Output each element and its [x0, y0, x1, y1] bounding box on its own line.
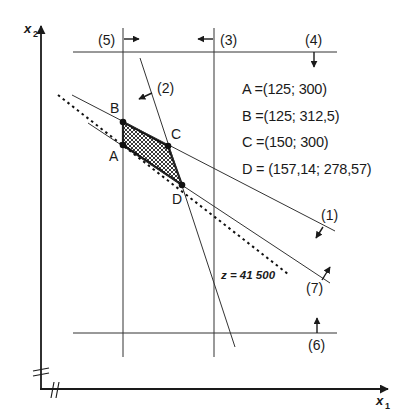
y-axis-label: x 2 — [23, 21, 38, 39]
coord-b: B =(125; 312,5) — [242, 103, 371, 130]
vertex-label-c: C — [171, 126, 181, 142]
objective-label: z = 41 500 — [220, 269, 276, 281]
arrow-1-icon — [316, 227, 323, 238]
vertex-c — [165, 143, 172, 150]
x-axis-label: x 1 — [375, 393, 390, 411]
vertex-label-a: A — [109, 148, 119, 164]
vertex-d — [179, 182, 186, 189]
constraint-label-5: (5) — [98, 32, 115, 48]
arrow-7-icon — [322, 267, 330, 280]
vertex-label-b: B — [110, 100, 119, 116]
y-axis — [33, 26, 49, 390]
arrow-2-icon — [139, 93, 152, 99]
svg-text:2: 2 — [33, 29, 38, 39]
svg-text:1: 1 — [385, 401, 390, 411]
constraint-label-4: (4) — [305, 32, 322, 48]
vertex-coordinates-list: A =(125; 300) B =(125; 312,5) C =(150; 3… — [242, 76, 371, 182]
constraint-line-2 — [140, 58, 235, 347]
constraint-label-7: (7) — [306, 280, 323, 296]
vertex-b — [120, 119, 127, 126]
constraint-label-1: (1) — [321, 207, 338, 223]
vertex-a — [120, 142, 127, 149]
constraint-label-3: (3) — [220, 32, 237, 48]
svg-text:x: x — [23, 21, 32, 36]
lp-diagram: x 2 x 1 (5) (3) (4) (2) (1) (7) — [0, 0, 409, 419]
x-axis — [40, 382, 388, 398]
constraint-label-2: (2) — [157, 80, 174, 96]
coord-d: D = (157,14; 278,57) — [242, 156, 371, 183]
coord-c: C =(150; 300) — [242, 129, 371, 156]
coord-a: A =(125; 300) — [242, 76, 371, 103]
constraint-label-6: (6) — [308, 337, 325, 353]
svg-text:x: x — [375, 393, 384, 408]
vertex-label-d: D — [172, 191, 182, 207]
